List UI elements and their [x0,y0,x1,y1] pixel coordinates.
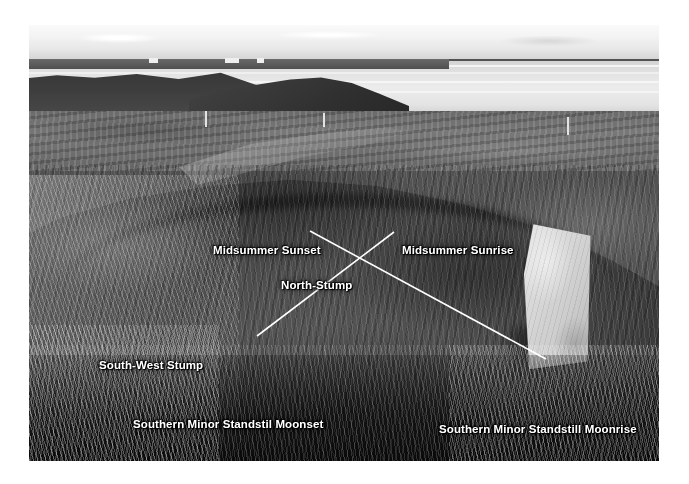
fence-post [567,117,569,135]
fence-post [205,111,207,127]
shoreline-building [225,58,239,63]
cloud-band [29,29,659,49]
shoreline-building [149,58,158,63]
label-south-west-stump: South-West Stump [99,359,203,371]
shoreline-building [257,58,264,63]
label-north-stump: North-Stump [281,279,352,291]
page-root: Midsummer Sunset Midsummer Sunrise North… [0,0,689,484]
label-southern-minor-standstill-moonset: Southern Minor Standstil Moonset [133,418,323,430]
label-southern-minor-standstill-moonrise: Southern Minor Standstill Moonrise [439,423,637,435]
label-midsummer-sunset: Midsummer Sunset [213,244,321,256]
fence-post [323,113,325,127]
label-midsummer-sunrise: Midsummer Sunrise [402,244,514,256]
far-shoreline [29,59,449,69]
annotated-site-photograph: Midsummer Sunset Midsummer Sunrise North… [29,25,659,461]
